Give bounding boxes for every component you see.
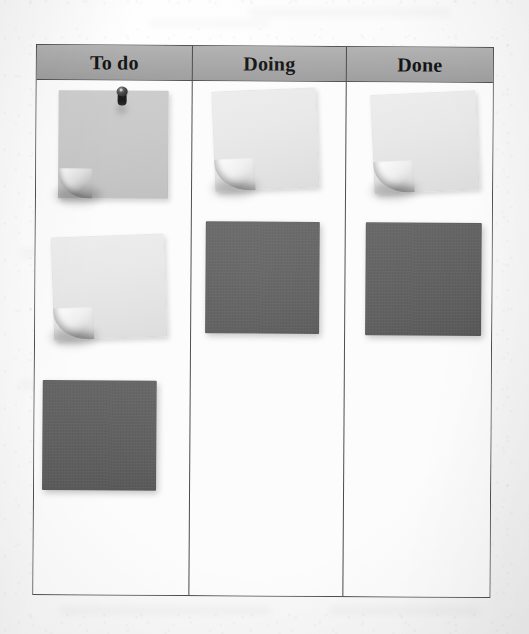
sticky-note-card[interactable] [58, 90, 169, 199]
photo-canvas: To do Doing Done [0, 0, 529, 634]
pushpin-highlight [119, 88, 122, 91]
kanban-board: To do Doing Done [32, 44, 494, 598]
sticky-note-card[interactable] [51, 234, 168, 341]
note-surface [51, 234, 168, 341]
column-header-todo[interactable]: To do [37, 45, 192, 80]
column-header-doing[interactable]: Doing [192, 46, 346, 81]
note-surface [58, 90, 169, 199]
column-header-label: Doing [243, 53, 295, 73]
ink-bleed-mark [330, 606, 480, 615]
column-header-label: Done [397, 54, 442, 74]
ink-bleed-mark [250, 8, 450, 17]
note-surface [205, 221, 320, 334]
dark-card[interactable] [42, 380, 157, 491]
note-surface [42, 380, 157, 491]
column-header-label: To do [90, 52, 139, 72]
note-surface [370, 90, 479, 194]
board-column-todo[interactable] [33, 80, 191, 595]
sticky-note-card[interactable] [370, 90, 479, 194]
note-surface [365, 222, 482, 336]
board-header-row: To do Doing Done [37, 45, 493, 83]
sticky-note-card[interactable] [211, 87, 319, 191]
column-header-done[interactable]: Done [346, 47, 493, 82]
board-body-row [33, 80, 492, 597]
ink-bleed-mark [150, 20, 270, 27]
note-surface [211, 87, 319, 191]
dark-card[interactable] [365, 222, 482, 336]
board-column-done[interactable] [342, 82, 492, 597]
pushpin-icon[interactable] [116, 87, 129, 107]
board-column-doing[interactable] [188, 81, 345, 596]
dark-card[interactable] [205, 221, 320, 334]
ink-bleed-mark [60, 606, 270, 615]
